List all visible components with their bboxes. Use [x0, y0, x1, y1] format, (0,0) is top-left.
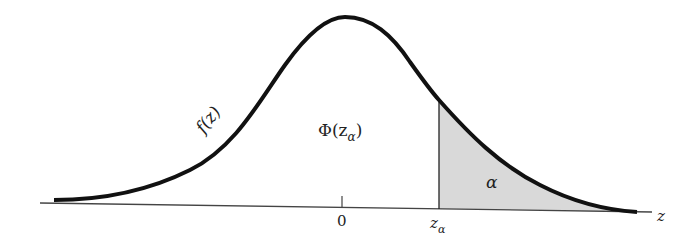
tail-label: α — [486, 172, 498, 192]
tail-area-alpha — [439, 100, 637, 212]
density-curve — [54, 17, 637, 212]
tick-zero-label: 0 — [337, 212, 347, 230]
normal-curve-diagram: f(z) Φ(zα) α 0 zα z — [0, 0, 695, 240]
axis-label: z — [656, 207, 665, 225]
critical-value-label: zα — [429, 214, 446, 236]
curve-label: f(z) — [190, 102, 225, 138]
cdf-label: Φ(zα) — [318, 120, 362, 144]
